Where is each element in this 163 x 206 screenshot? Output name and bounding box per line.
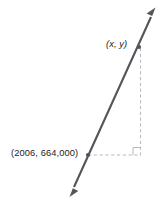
figure-graphic <box>0 0 163 206</box>
upper-point-dot <box>137 45 141 49</box>
lower-point-label: (2006, 664,000) <box>11 149 78 158</box>
figure-canvas: (2006, 664,000) (x, y) <box>0 0 163 206</box>
arrowhead-upper-icon <box>147 8 156 17</box>
arrowhead-lower-icon <box>70 188 79 197</box>
right-angle-marker-icon <box>133 148 141 156</box>
lower-point-dot <box>86 153 90 157</box>
upper-point-label: (x, y) <box>106 40 127 49</box>
